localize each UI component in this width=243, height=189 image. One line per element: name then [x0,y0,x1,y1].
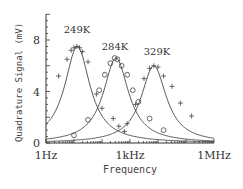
plus-marker [100,106,105,111]
x-axis-title: Frequency [103,164,157,175]
fit-curve-329K [46,66,214,142]
plus-marker [77,45,82,50]
circle-marker [97,88,102,93]
plus-marker [69,48,74,53]
circle-marker [125,72,130,77]
fit-curve-284K [46,58,214,141]
plus-marker [178,101,183,106]
plus-marker [147,66,152,71]
fit-curve-249K [46,47,214,142]
plus-marker [189,113,194,118]
plus-marker [111,116,116,121]
plus-marker [170,84,175,89]
circle-marker [147,116,152,121]
labels: 0481Hz1kHz1MHzFrequencyQuadrature Signal… [14,23,231,175]
circle-marker [72,133,77,138]
annotation-329K: 329K [144,46,171,57]
x-tick-label: 1MHz [197,149,231,162]
circle-marker [102,72,107,77]
plus-marker [56,74,61,79]
plus-marker [72,45,77,50]
plus-marker [142,76,147,81]
circle-marker [130,88,135,93]
y-axis-title: Quadrature Signal (mV) [14,23,24,142]
y-tick-label: 8 [33,34,40,47]
annotation-249K: 249K [64,24,91,35]
x-tick-label: 1kHz [115,149,144,162]
plus-marker [65,57,70,62]
annotation-284K: 284K [102,41,129,52]
plus-marker [86,59,91,64]
plus-marker [156,65,161,70]
circle-marker [86,117,91,122]
fit-curves [46,47,214,142]
quadrature-signal-chart: 0481Hz1kHz1MHzFrequencyQuadrature Signal… [0,0,243,189]
y-tick-label: 4 [33,86,40,99]
x-tick-label: 1Hz [35,149,58,162]
plus-marker [116,124,121,129]
data-points [56,44,194,138]
plus-marker [161,74,166,79]
circle-marker [161,128,166,133]
